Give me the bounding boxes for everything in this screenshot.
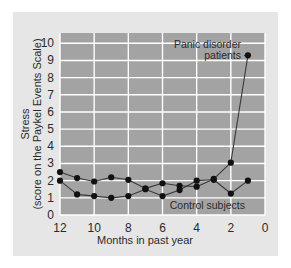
x-tick-0: 0 (262, 221, 269, 235)
x-axis-tick-labels: 121086420 (53, 221, 268, 235)
y-tick-9: 9 (47, 53, 54, 67)
data-point (142, 186, 148, 192)
x-tick-4: 4 (193, 221, 200, 235)
data-point (57, 178, 63, 184)
x-tick-2: 2 (227, 221, 234, 235)
control-subjects-label: Control subjects (170, 199, 245, 211)
data-point (176, 187, 182, 193)
x-tick-10: 10 (87, 221, 101, 235)
data-point (194, 184, 200, 190)
y-tick-4: 4 (47, 139, 54, 153)
y-tick-2: 2 (47, 174, 54, 188)
data-point (125, 177, 131, 183)
y-tick-7: 7 (47, 88, 54, 102)
x-axis-title: Months in past year (97, 234, 193, 246)
y-tick-1: 1 (47, 191, 54, 205)
y-axis-title-line1: Stress (19, 108, 31, 140)
data-point (211, 177, 217, 183)
data-point (74, 191, 80, 197)
data-point (159, 193, 165, 199)
data-point (57, 169, 63, 175)
data-point (159, 180, 165, 186)
data-point (245, 52, 251, 58)
data-point (194, 178, 200, 184)
y-tick-3: 3 (47, 156, 54, 170)
data-point (108, 174, 114, 180)
x-tick-8: 8 (125, 221, 132, 235)
data-point (91, 178, 97, 184)
data-point (91, 193, 97, 199)
y-tick-6: 6 (47, 105, 54, 119)
x-tick-6: 6 (159, 221, 166, 235)
figure-background: 012345678910 121086420 Panic disorder pa… (13, 12, 278, 256)
data-point (125, 193, 131, 199)
x-tick-12: 12 (53, 221, 67, 235)
y-tick-0: 0 (47, 208, 54, 222)
data-point (228, 160, 234, 166)
data-point (74, 175, 80, 181)
y-tick-5: 5 (47, 122, 54, 136)
data-point (228, 190, 234, 196)
y-tick-8: 8 (47, 71, 54, 85)
y-axis-title-line2: (score on the Paykel Events Scale) (31, 38, 43, 209)
stress-line-chart: 012345678910 121086420 Panic disorder pa… (13, 12, 278, 256)
data-point (108, 195, 114, 201)
data-point (245, 178, 251, 184)
panic-disorder-label-line2: patients (204, 49, 241, 61)
